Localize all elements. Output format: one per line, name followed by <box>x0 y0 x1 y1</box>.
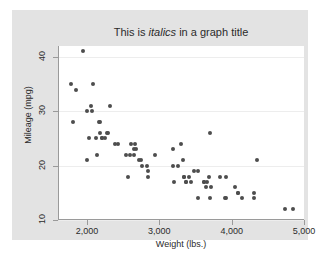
graph-figure: This is italics in a graph title 1020304… <box>0 0 318 257</box>
scatter-point <box>108 104 112 108</box>
scatter-point <box>106 131 110 135</box>
y-axis-tick-label: 20 <box>37 157 47 173</box>
scatter-point <box>69 82 73 86</box>
scatter-point <box>89 104 93 108</box>
scatter-point <box>196 169 200 173</box>
scatter-point <box>100 136 104 140</box>
scatter-point <box>171 164 175 168</box>
scatter-point <box>283 207 287 211</box>
scatter-point <box>85 109 89 113</box>
scatter-point <box>132 147 136 151</box>
gridline <box>59 220 304 221</box>
gridline <box>59 166 304 167</box>
scatter-point <box>85 158 89 162</box>
scatter-point <box>139 158 143 162</box>
y-axis-tick <box>53 111 58 112</box>
y-axis-tick <box>53 220 58 221</box>
scatter-point <box>202 180 206 184</box>
scatter-point <box>252 196 256 200</box>
scatter-point <box>98 120 102 124</box>
x-axis-tick <box>232 220 233 225</box>
gridline <box>59 111 304 112</box>
scatter-point <box>94 136 98 140</box>
scatter-point <box>187 175 191 179</box>
scatter-point <box>184 180 188 184</box>
scatter-point <box>184 180 188 184</box>
title-prefix: This is <box>114 26 149 38</box>
x-axis-tick <box>304 220 305 225</box>
scatter-point <box>126 175 130 179</box>
scatter-point <box>97 120 101 124</box>
x-axis-tick-label: 3,000 <box>129 226 189 236</box>
scatter-point <box>189 180 193 184</box>
title-emphasis: italics <box>149 26 177 38</box>
scatter-point <box>100 136 104 140</box>
scatter-point <box>146 169 150 173</box>
scatter-point <box>90 109 94 113</box>
scatter-point <box>236 191 240 195</box>
scatter-point <box>116 142 120 146</box>
scatter-point <box>240 196 244 200</box>
y-axis-title: Mileage (mpg) <box>23 65 33 165</box>
scatter-point <box>98 131 102 135</box>
scatter-point <box>181 158 185 162</box>
x-axis-tick <box>159 220 160 225</box>
scatter-points <box>59 46 304 219</box>
gridlines <box>59 46 304 219</box>
scatter-point <box>137 158 141 162</box>
y-axis-tick-label: 30 <box>37 102 47 118</box>
scatter-point <box>204 185 208 189</box>
scatter-point <box>140 164 144 168</box>
graph-canvas: This is italics in a graph title 1020304… <box>12 10 308 240</box>
scatter-point <box>103 136 107 140</box>
x-axis-title: Weight (lbs.) <box>58 239 304 249</box>
scatter-point <box>218 175 222 179</box>
x-axis-tick-label: 5,000 <box>274 226 318 236</box>
scatter-point <box>132 153 136 157</box>
scatter-point <box>207 175 211 179</box>
scatter-point <box>171 147 175 151</box>
x-axis-tick-label: 4,000 <box>202 226 262 236</box>
scatter-point <box>182 175 186 179</box>
scatter-point <box>95 153 99 157</box>
plot-region <box>58 46 304 220</box>
scatter-point <box>208 131 212 135</box>
x-axis-tick-label: 2,000 <box>57 226 117 236</box>
graph-title: This is italics in a graph title <box>58 26 304 38</box>
scatter-point <box>146 175 150 179</box>
scatter-point <box>105 131 109 135</box>
scatter-point <box>81 49 85 53</box>
scatter-point <box>113 142 117 146</box>
scatter-point <box>128 153 132 157</box>
scatter-point <box>205 180 209 184</box>
scatter-point <box>233 185 237 189</box>
scatter-point <box>153 153 157 157</box>
y-axis-tick <box>53 166 58 167</box>
scatter-point <box>179 142 183 146</box>
scatter-point <box>129 142 133 146</box>
scatter-point <box>124 153 128 157</box>
x-axis-tick <box>87 220 88 225</box>
y-axis-tick-label: 40 <box>37 48 47 64</box>
scatter-point <box>182 175 186 179</box>
y-axis-tick-label: 10 <box>37 211 47 227</box>
gridline <box>59 57 304 58</box>
scatter-point <box>87 136 91 140</box>
scatter-point <box>145 164 149 168</box>
scatter-point <box>208 196 212 200</box>
scatter-point <box>91 82 95 86</box>
scatter-point <box>255 158 259 162</box>
title-suffix: in a graph title <box>176 26 248 38</box>
scatter-point <box>134 147 138 151</box>
y-axis-tick <box>53 57 58 58</box>
scatter-point <box>224 196 228 200</box>
scatter-point <box>291 207 295 211</box>
scatter-point <box>209 185 213 189</box>
scatter-point <box>236 191 240 195</box>
scatter-point <box>223 196 227 200</box>
scatter-point <box>74 88 78 92</box>
scatter-point <box>192 169 196 173</box>
scatter-point <box>133 142 137 146</box>
scatter-point <box>71 120 75 124</box>
scatter-point <box>176 164 180 168</box>
